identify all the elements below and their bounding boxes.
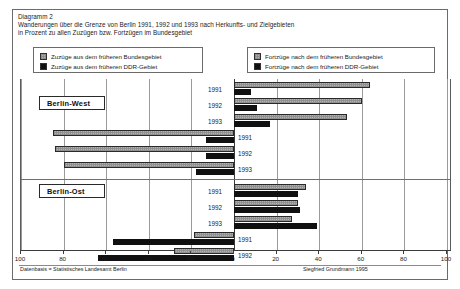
bar-black (113, 239, 234, 245)
bar-gray (64, 162, 234, 168)
figure-header: Diagramm 2 Wanderungen über die Grenze v… (18, 13, 443, 38)
chart-row: 1993 (21, 162, 450, 178)
axis-tick-label: 40 (144, 255, 151, 262)
category-label: 1993 (208, 218, 222, 229)
group-label-berlin-west: Berlin-West (39, 96, 105, 110)
chart-row: 1993 (21, 114, 450, 130)
axis-tick (105, 251, 106, 254)
bar-black (206, 153, 234, 159)
axis-tick-label: 80 (59, 255, 66, 262)
chart-row: 1991 (21, 232, 450, 248)
axis-tick (20, 251, 21, 254)
axis-tick (361, 251, 362, 254)
legend-item-label: Fortzüge nach dem früheren Bundesgebiet (265, 53, 383, 60)
category-label: 1991 (238, 234, 252, 245)
legend-swatch-gray-icon (254, 53, 261, 60)
legend-swatch-gray-icon (40, 53, 47, 60)
legend-item: Zuzüge aus dem früheren DDR-Gebiet (40, 62, 157, 71)
bar-black (234, 207, 300, 213)
bar-gray (194, 232, 234, 238)
axis-tick-label: 100 (15, 255, 25, 262)
legend-item: Zuzüge aus dem früheren Bundesgebiet (40, 52, 161, 61)
legend-item-label: Fortzüge nach dem früheren DDR-Gebiet (265, 63, 379, 70)
axis-tick (148, 251, 149, 254)
category-label: 1991 (208, 84, 222, 95)
figure-title-line1: Wanderungen über die Grenze von Berlin 1… (18, 21, 443, 29)
axis-tick (403, 251, 404, 254)
axis-tick (446, 251, 447, 254)
category-label: 1992 (238, 148, 252, 159)
bar-black (234, 89, 251, 95)
bar-black (234, 105, 257, 111)
chart-row: 1992 (21, 146, 450, 162)
axis-tick-label: 40 (315, 255, 322, 262)
bar-gray (234, 200, 298, 206)
x-axis: 10080604020020406080100 (20, 251, 451, 264)
category-label: 1993 (208, 116, 222, 127)
bar-gray (234, 114, 347, 120)
source-note-right: Siegfried Grundmann 1995 (303, 266, 368, 272)
diagram-frame: Diagramm 2 Wanderungen über die Grenze v… (12, 9, 448, 280)
category-label: 1991 (208, 186, 222, 197)
bar-black (234, 223, 317, 229)
category-label: 1992 (208, 202, 222, 213)
axis-tick-label: 100 (441, 255, 451, 262)
legend-item-label: Zuzüge aus dem früheren DDR-Gebiet (51, 63, 157, 70)
chart-row: 1992 (21, 200, 450, 216)
axis-tick-label: 80 (400, 255, 407, 262)
group-label-berlin-ost: Berlin-Ost (39, 184, 105, 198)
bar-black (234, 121, 270, 127)
axis-tick-label: 0 (231, 255, 234, 262)
axis-tick (190, 251, 191, 254)
bar-gray (234, 82, 370, 88)
legend-item: Fortzüge nach dem früheren DDR-Gebiet (254, 62, 379, 71)
legend-item: Fortzüge nach dem früheren Bundesgebiet (254, 52, 383, 61)
chart-row: 1993 (21, 216, 450, 232)
axis-tick (318, 251, 319, 254)
legend-fortzuege: Fortzüge nach dem früheren Bundesgebiet … (247, 47, 435, 73)
bar-gray (234, 184, 306, 190)
category-label: 1992 (208, 100, 222, 111)
bar-gray (53, 130, 234, 136)
bar-gray (234, 216, 292, 222)
axis-tick (233, 251, 234, 254)
source-note-left: Datenbasis = Statistisches Landesamt Ber… (20, 266, 127, 272)
bar-black (206, 137, 234, 143)
group-separator (21, 179, 450, 180)
category-label: 1993 (238, 164, 252, 175)
axis-tick-label: 60 (357, 255, 364, 262)
figure-label: Diagramm 2 (18, 13, 443, 21)
axis-tick (276, 251, 277, 254)
bar-black (234, 191, 298, 197)
bar-gray (55, 146, 234, 152)
bar-gray (234, 98, 362, 104)
legend-item-label: Zuzüge aus dem früheren Bundesgebiet (51, 53, 161, 60)
axis-tick (63, 251, 64, 254)
axis-tick-label: 60 (102, 255, 109, 262)
legend-zuzuege: Zuzüge aus dem früheren Bundesgebiet Zuz… (33, 47, 203, 73)
legend-swatch-black-icon (254, 63, 261, 70)
category-label: 1991 (238, 132, 252, 143)
axis-tick-label: 20 (187, 255, 194, 262)
legend-swatch-black-icon (40, 63, 47, 70)
chart-row: 1991 (21, 130, 450, 146)
axis-tick-label: 20 (272, 255, 279, 262)
figure-title-line2: in Prozent zu allen Zuzügen bzw. Fortzüg… (18, 29, 443, 37)
bar-black (196, 169, 234, 175)
